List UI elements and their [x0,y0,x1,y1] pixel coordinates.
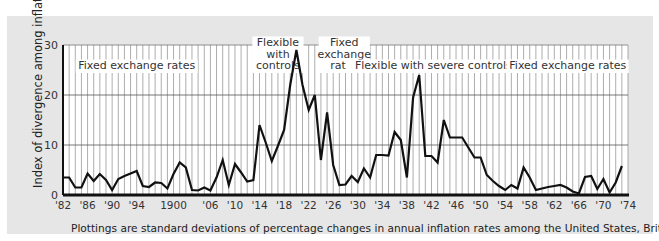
x-tick-label: '62 [546,199,562,211]
regime-label: Fixed exchange rates [509,59,626,72]
x-tick-label: '70 [595,199,611,211]
regime-label: Fixed exchange rates [78,59,195,72]
x-tick-label: 1900 [160,199,187,211]
x-tick-label: '94 [129,199,146,211]
x-tick-label: '90 [104,199,120,211]
x-tick-label: '46 [448,199,465,211]
x-tick-label: '26 [325,199,342,211]
chart-svg: Fixed exchange ratesFlexiblewithcontrols… [7,16,653,234]
regime-label: Flexible with severe controls [355,59,512,72]
cropped-heading-fragment [0,0,659,14]
x-tick-label: '38 [399,199,415,211]
x-tick-label: '86 [79,199,96,211]
y-tick-label: 30 [44,39,58,52]
x-tick-label: '30 [350,199,366,211]
x-tick-label: '10 [227,199,243,211]
chart-panel: Index of divergence among inflation rate… [7,16,653,234]
x-tick-label: '74 [620,199,637,211]
x-tick-label: '82 [55,199,71,211]
x-tick-label: '22 [301,199,317,211]
x-tick-label: '14 [251,199,268,211]
y-tick-label: 20 [44,89,58,102]
chart-caption: Plottings are standard deviations of per… [71,222,659,234]
x-tick-label: '58 [522,199,538,211]
x-tick-label: '42 [423,199,439,211]
x-tick-label: '50 [472,199,488,211]
x-tick-label: '06 [202,199,219,211]
y-tick-label: 10 [44,139,58,152]
x-tick-label: '18 [276,199,292,211]
x-tick-label: '34 [374,199,391,211]
x-tick-label: '54 [497,199,514,211]
x-tick-label: '66 [571,199,588,211]
